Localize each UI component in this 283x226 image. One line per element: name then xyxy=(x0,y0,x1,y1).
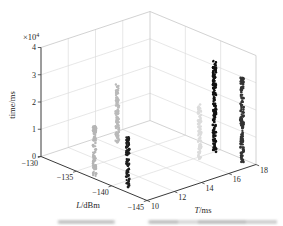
data-point xyxy=(93,168,95,170)
data-point xyxy=(242,134,244,136)
data-point xyxy=(212,60,214,62)
data-point xyxy=(125,151,127,153)
figure-3d-scatter: 01234−130−135−140−1451012141618 ×104 tim… xyxy=(0,0,283,226)
grid-line xyxy=(150,93,256,137)
data-point xyxy=(240,152,243,155)
tick-label-layer: 01234−130−135−140−1451012141618 xyxy=(21,43,268,211)
data-point xyxy=(240,107,242,109)
data-point xyxy=(213,131,215,133)
data-point xyxy=(214,143,216,145)
y-tick-label: 10 xyxy=(151,202,159,211)
data-point xyxy=(117,138,120,141)
data-point xyxy=(127,186,130,189)
data-point xyxy=(242,124,245,127)
data-point xyxy=(240,87,242,89)
data-point xyxy=(215,150,218,153)
data-point xyxy=(215,61,217,63)
data-point xyxy=(127,183,129,185)
data-point xyxy=(93,130,95,132)
data-point xyxy=(126,173,128,175)
data-point xyxy=(240,89,243,92)
data-point xyxy=(240,161,242,163)
data-point xyxy=(115,94,117,96)
x-tick-mark xyxy=(108,186,111,187)
data-point xyxy=(115,114,117,116)
data-point xyxy=(127,142,130,145)
grid-line xyxy=(68,148,174,192)
data-point xyxy=(95,172,98,175)
y-tick-mark xyxy=(229,174,232,175)
data-point xyxy=(215,112,217,114)
data-point xyxy=(213,128,216,131)
data-point xyxy=(241,159,244,162)
data-point xyxy=(213,99,216,102)
grid-line xyxy=(96,139,202,183)
y-tick-label: 18 xyxy=(260,166,268,175)
data-point xyxy=(127,174,130,177)
scatter-column-1 xyxy=(92,125,98,177)
data-point xyxy=(95,131,97,133)
y-tick-mark xyxy=(202,183,205,184)
data-point xyxy=(117,85,119,87)
data-point xyxy=(215,124,217,126)
y-tick-label: 16 xyxy=(233,175,241,184)
data-point xyxy=(214,108,217,111)
data-point xyxy=(198,138,201,141)
data-point xyxy=(214,64,217,67)
data-point xyxy=(92,162,94,164)
scatter-column-5 xyxy=(211,60,217,153)
data-point xyxy=(240,138,243,141)
data-point xyxy=(92,137,94,139)
x-tick-label: −130 xyxy=(21,159,38,168)
data-point xyxy=(197,119,200,122)
data-point xyxy=(115,83,117,85)
data-point xyxy=(197,151,199,153)
scatter-column-6 xyxy=(239,77,245,164)
data-point xyxy=(198,126,200,128)
data-point xyxy=(242,106,244,108)
data-point xyxy=(213,96,215,98)
grid-line xyxy=(150,39,256,83)
data-point xyxy=(240,145,242,147)
x-tick-label: −145 xyxy=(127,203,144,212)
data-point xyxy=(213,89,215,91)
data-point xyxy=(197,111,200,114)
data-point xyxy=(118,104,121,107)
data-point xyxy=(242,78,245,81)
data-point xyxy=(240,117,243,120)
data-point xyxy=(241,121,244,124)
y-axis-title: T/ms xyxy=(194,205,211,215)
data-layer xyxy=(92,60,245,189)
x-axis-title: L/dBm xyxy=(75,200,100,210)
data-point xyxy=(213,117,216,120)
data-point xyxy=(215,71,217,73)
data-point xyxy=(240,141,243,144)
data-point xyxy=(241,104,244,107)
data-point xyxy=(213,103,216,106)
data-point xyxy=(197,109,199,111)
y-tick-mark xyxy=(147,201,150,202)
box-edge-layer xyxy=(41,12,256,165)
data-point xyxy=(200,125,202,127)
data-point xyxy=(242,146,245,149)
data-point xyxy=(197,147,200,150)
data-point xyxy=(215,148,217,150)
3d-scatter-plot: 01234−130−135−140−1451012141618 ×104 tim… xyxy=(0,0,283,226)
data-point xyxy=(117,101,119,103)
data-point xyxy=(199,139,202,142)
data-point xyxy=(213,93,216,96)
x-tick-mark xyxy=(73,171,76,172)
y-tick-label: 14 xyxy=(206,184,214,193)
data-point xyxy=(116,89,118,91)
data-point xyxy=(241,94,243,96)
data-point xyxy=(212,71,214,73)
scatter-column-4 xyxy=(197,103,203,160)
data-point xyxy=(115,131,117,133)
data-point xyxy=(128,167,130,169)
data-point xyxy=(126,138,129,141)
data-point xyxy=(197,133,199,135)
data-point xyxy=(116,124,118,126)
data-point xyxy=(92,155,94,157)
y-tick-mark xyxy=(256,165,259,166)
data-point xyxy=(199,145,202,148)
